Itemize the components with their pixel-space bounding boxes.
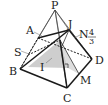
diagram-canvas: P A J N 4 3 S B I D M C: [0, 0, 108, 105]
fraction-numerator: 4: [89, 28, 94, 37]
label-c: C: [63, 92, 71, 105]
label-i: I: [40, 61, 44, 74]
label-s: S: [14, 46, 22, 59]
label-n: N: [79, 28, 89, 41]
label-m: M: [80, 74, 91, 87]
label-b: B: [9, 65, 17, 78]
label-p: P: [51, 0, 59, 12]
fraction-denominator: 3: [89, 37, 94, 46]
label-a: A: [25, 24, 35, 37]
label-d: D: [95, 54, 104, 67]
pyramid-diagram: P A J N 4 3 S B I D M C: [0, 0, 108, 105]
label-j: J: [67, 18, 72, 31]
